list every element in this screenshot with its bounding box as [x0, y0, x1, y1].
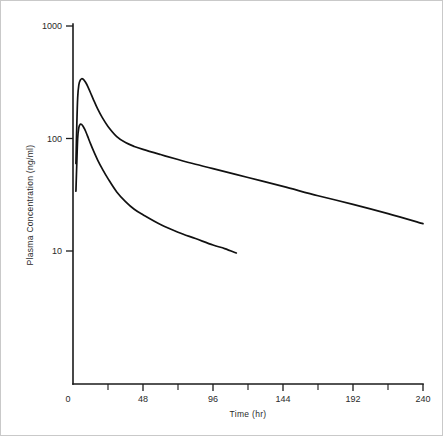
curve-group [76, 79, 423, 253]
y-tick-label-100: 100 [47, 134, 62, 144]
axis-group [73, 24, 423, 384]
x-tick-label-144: 144 [275, 394, 290, 404]
x-tick-label-192: 192 [345, 394, 360, 404]
x-tick-label-0: 0 [65, 394, 70, 404]
y-tick-label-1000: 1000 [42, 21, 62, 31]
curve-lower-curve [76, 124, 236, 253]
plasma-concentration-chart: 101001000 04896144192240 Time (hr) Plasm… [0, 0, 443, 436]
x-tick-group: 04896144192240 [65, 384, 430, 404]
x-tick-label-96: 96 [208, 394, 218, 404]
y-tick-label-10: 10 [52, 246, 62, 256]
y-axis-title: Plasma Concentration (ng/ml) [25, 145, 35, 266]
figure-root: 101001000 04896144192240 Time (hr) Plasm… [0, 0, 443, 436]
x-tick-label-48: 48 [138, 394, 148, 404]
curve-upper-curve [76, 79, 423, 224]
y-tick-group: 101001000 [42, 21, 73, 256]
x-axis-title: Time (hr) [230, 409, 267, 419]
x-tick-label-240: 240 [415, 394, 430, 404]
